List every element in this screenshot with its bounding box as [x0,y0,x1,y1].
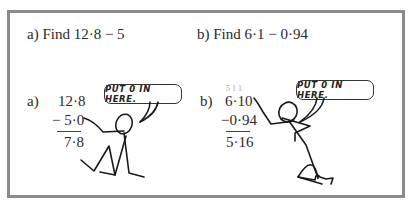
stick-figure-b [254,98,333,184]
stick-figure-a [81,112,144,177]
stick-figure-illustrations [0,0,412,208]
